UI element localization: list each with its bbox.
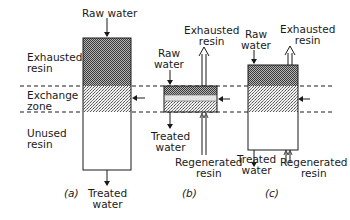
exchange-zone-label-line2: zone [27, 101, 78, 112]
panel-c-exhausted-resin-label: Exhausted resin [280, 24, 335, 46]
panel-c-raw-water-label: Raw water [241, 29, 271, 51]
panel-b-exhausted-resin-label: Exhausted resin [184, 25, 239, 47]
panel-c-treated-line2: water [237, 165, 276, 176]
panel-b-regen-line2: resin [175, 168, 243, 179]
panel-a-caption: (a) [64, 187, 79, 199]
panel-b-raw-water-label: Raw water [154, 48, 184, 70]
panel-b-exhausted-line2: resin [184, 36, 239, 47]
exchange-zone-label: Exchange zone [27, 90, 78, 112]
exhausted-resin-label: Exhausted resin [27, 52, 82, 74]
exhausted-resin-label-line2: resin [27, 63, 82, 74]
panel-c-regen-line2: resin [280, 168, 348, 179]
panel-c-raw-line2: water [241, 40, 271, 51]
panel-a-treated-water-label: Treated water [88, 188, 127, 210]
panel-c-treated-water-label: Treated water [237, 154, 276, 176]
panel-b-raw-line2: water [154, 59, 184, 70]
panel-a-raw-water-label: Raw water [82, 8, 137, 19]
panel-a-column [83, 18, 145, 186]
unused-resin-label: Unused resin [27, 128, 67, 150]
panel-c-caption: (c) [265, 187, 279, 199]
panel-c-regenerated-resin-label: Regenerated resin [280, 157, 348, 179]
panel-b-regenerated-resin-label: Regenerated resin [175, 157, 243, 179]
unused-resin-label-line2: resin [27, 139, 67, 150]
panel-b-caption: (b) [182, 187, 197, 199]
panel-b-treated-line2: water [151, 142, 190, 153]
panel-b-treated-water-label: Treated water [151, 131, 190, 153]
panel-c-exhausted-line2: resin [280, 35, 335, 46]
panel-a-treated-line2: water [88, 199, 127, 210]
panel-c-column [248, 46, 310, 167]
